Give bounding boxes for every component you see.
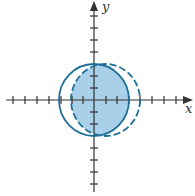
y-axis-label: y bbox=[101, 0, 110, 14]
coordinate-diagram: x y bbox=[0, 0, 195, 196]
y-axis-arrow-icon bbox=[90, 1, 98, 11]
x-axis-label: x bbox=[185, 101, 193, 116]
